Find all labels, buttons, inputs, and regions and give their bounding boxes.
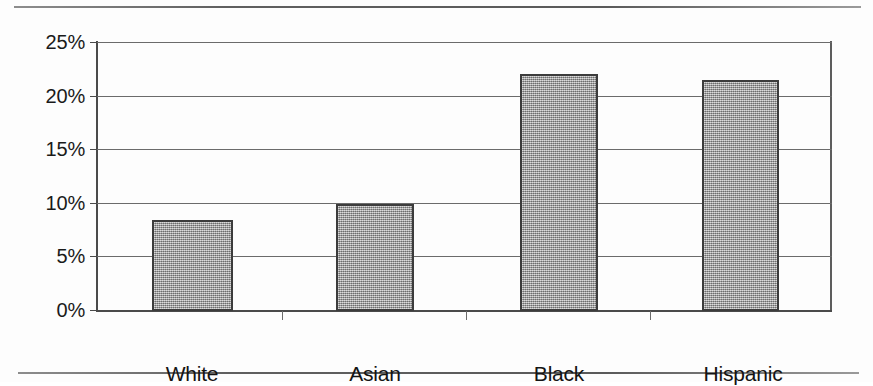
x-category-label-black: Black (534, 362, 584, 386)
plot-area: 25% 20% 15% 10% 5% 0% W (97, 42, 832, 311)
y-tick-mark-20 (90, 96, 97, 97)
x-tick-mark-3 (650, 311, 651, 320)
y-tick-mark-15 (90, 149, 97, 150)
x-tick-mark-2 (466, 311, 467, 320)
y-tick-label-10: 10% (46, 191, 85, 214)
y-tick-label-15: 15% (46, 138, 85, 161)
bar-asian[interactable] (336, 204, 414, 311)
bar-hispanic[interactable] (702, 80, 779, 311)
x-category-label-hispanic: Hispanic (704, 362, 783, 386)
y-tick-label-25: 25% (46, 31, 85, 54)
y-tick-mark-0 (90, 310, 97, 311)
y-tick-label-5: 5% (56, 245, 85, 268)
plot-right-border (830, 41, 832, 312)
bar-black[interactable] (520, 74, 598, 311)
gridline-25: 25% (97, 42, 832, 43)
y-tick-mark-25 (90, 42, 97, 43)
y-tick-label-0: 0% (56, 299, 85, 322)
page-rule-top (14, 6, 861, 8)
y-axis-line (96, 41, 98, 312)
x-tick-mark-1 (282, 311, 283, 320)
bar-white[interactable] (152, 220, 233, 311)
y-tick-mark-5 (90, 256, 97, 257)
y-tick-mark-10 (90, 203, 97, 204)
y-tick-label-20: 20% (46, 84, 85, 107)
x-category-label-white: White (166, 362, 219, 386)
x-category-label-asian: Asian (349, 362, 401, 386)
